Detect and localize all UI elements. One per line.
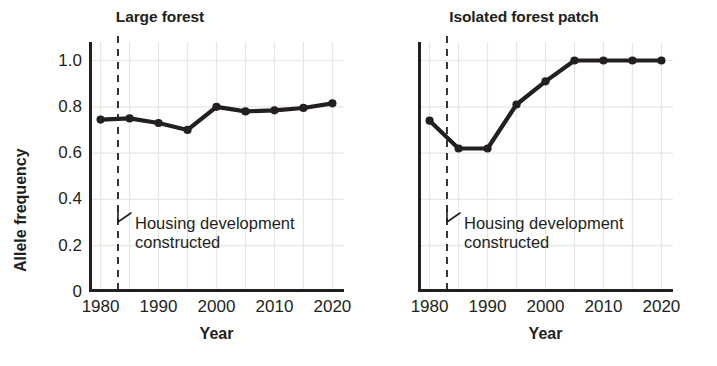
x-tick-label: 2020 <box>642 297 680 317</box>
x-tick-label: 1980 <box>411 297 449 317</box>
x-tick-label: 2000 <box>527 297 565 317</box>
y-tick-label: 0.8 <box>58 97 82 117</box>
y-tick-label: 0.4 <box>58 189 82 209</box>
y-axis-title: Allele frequency <box>12 148 30 272</box>
x-tick-label: 2020 <box>313 297 351 317</box>
chart-panel-isolated-forest-patch: Isolated forest patch 198019902000201020… <box>357 0 717 366</box>
annotation-line-1: Housing development <box>135 214 295 233</box>
panel-title-left: Large forest <box>0 8 340 26</box>
x-tick-label: 2010 <box>585 297 623 317</box>
annotation-leader-line <box>447 210 460 222</box>
x-tick-label: 2000 <box>198 297 236 317</box>
panel-title-right: Isolated forest patch <box>344 8 704 26</box>
x-axis-title-right: Year <box>418 325 673 343</box>
annotation-line-2: constructed <box>464 233 624 252</box>
y-tick-label: 0.6 <box>58 143 82 163</box>
x-tick-label: 2010 <box>256 297 294 317</box>
plot-area-left: 00.20.40.60.81.0 19801990200020102020 Ho… <box>89 42 344 292</box>
annotation-label-right: Housing development constructed <box>464 214 624 251</box>
y-tick-label: 1.0 <box>58 51 82 71</box>
figure-root: Large forest Allele frequency 00.20.40.6… <box>0 0 717 366</box>
annotation-label-left: Housing development constructed <box>135 214 295 251</box>
x-axis-title-left: Year <box>89 325 344 343</box>
x-tick-label: 1980 <box>82 297 120 317</box>
annotation-line-1: Housing development <box>464 214 624 233</box>
y-tick-label: 0 <box>73 282 82 302</box>
annotation-leader-line <box>118 210 131 222</box>
annotation-marker-right <box>418 42 673 292</box>
plot-area-right: 19801990200020102020 Housing development… <box>418 42 673 292</box>
annotation-marker-left <box>89 42 344 292</box>
annotation-line-2: constructed <box>135 233 295 252</box>
y-tick-label: 0.2 <box>58 236 82 256</box>
chart-panel-large-forest: Large forest Allele frequency 00.20.40.6… <box>0 0 360 366</box>
x-tick-label: 1990 <box>469 297 507 317</box>
x-tick-label: 1990 <box>140 297 178 317</box>
